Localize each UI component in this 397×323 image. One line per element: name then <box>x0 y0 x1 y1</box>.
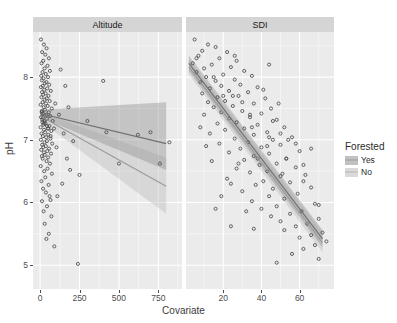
data-point <box>231 94 234 97</box>
data-point <box>195 57 198 60</box>
data-point <box>168 141 171 144</box>
data-point <box>205 145 208 148</box>
data-point <box>45 237 48 240</box>
y-tick-mark <box>30 140 33 141</box>
data-point <box>277 102 280 105</box>
data-point <box>50 215 53 218</box>
data-point <box>48 99 51 102</box>
y-tick-label: 5 <box>8 260 28 270</box>
data-point <box>65 157 68 160</box>
data-point <box>226 177 229 180</box>
data-point <box>199 126 202 129</box>
legend-item-no[interactable]: No <box>345 167 372 177</box>
data-point <box>235 167 238 170</box>
data-point <box>214 207 217 210</box>
data-point <box>206 101 209 104</box>
data-point <box>47 156 50 159</box>
data-point <box>227 151 230 154</box>
facet-strip-sdi: SDI <box>186 17 334 32</box>
data-point <box>220 84 223 87</box>
data-point <box>45 160 48 163</box>
data-point <box>250 126 253 129</box>
panel-altitude <box>33 32 182 289</box>
data-point <box>44 72 47 75</box>
x-tick-mark <box>223 290 224 293</box>
data-point <box>302 247 305 250</box>
y-tick-mark <box>30 77 33 78</box>
data-point <box>43 67 46 70</box>
data-point <box>289 212 292 215</box>
data-point <box>304 173 307 176</box>
data-point <box>50 129 53 132</box>
y-tick-label: 6 <box>8 197 28 207</box>
legend-label: No <box>361 167 372 177</box>
data-point <box>48 195 51 198</box>
panel-sdi <box>186 32 334 289</box>
data-point <box>226 51 229 54</box>
legend-label: Yes <box>361 155 375 165</box>
data-point <box>243 158 246 161</box>
data-point <box>42 210 45 213</box>
data-point <box>49 89 52 92</box>
data-point <box>229 66 232 69</box>
legend-swatch-yes <box>345 156 358 165</box>
data-point <box>268 63 271 66</box>
data-point <box>243 69 246 72</box>
data-point <box>47 183 50 186</box>
x-tick-label: 250 <box>72 293 86 303</box>
data-point <box>239 83 242 86</box>
data-point <box>216 122 219 125</box>
data-point <box>294 225 297 228</box>
facet-strip-label: SDI <box>252 20 267 30</box>
legend-item-yes[interactable]: Yes <box>345 155 375 165</box>
data-point <box>296 192 299 195</box>
x-tick-label: 20 <box>219 293 228 303</box>
data-point <box>43 222 46 225</box>
data-point <box>275 162 278 165</box>
data-point <box>45 136 48 139</box>
data-point <box>294 142 297 145</box>
data-point <box>268 195 271 198</box>
data-point <box>201 49 204 52</box>
data-point <box>229 225 232 228</box>
data-point <box>325 240 328 243</box>
x-tick-mark <box>158 290 159 293</box>
data-point <box>275 118 278 121</box>
data-point <box>224 128 227 131</box>
data-point <box>46 150 49 153</box>
data-point <box>44 53 47 56</box>
data-point <box>49 198 52 201</box>
data-point <box>214 79 217 82</box>
data-point <box>302 163 305 166</box>
data-point <box>56 195 59 198</box>
data-point <box>266 145 269 148</box>
data-point <box>275 205 278 208</box>
data-point <box>54 102 57 105</box>
data-point <box>266 131 269 134</box>
data-point <box>48 83 51 86</box>
data-point <box>254 183 257 186</box>
data-point <box>42 187 45 190</box>
y-tick-mark <box>30 265 33 266</box>
fit-line-yes <box>189 63 323 239</box>
points-no <box>195 57 320 207</box>
data-point <box>41 71 44 74</box>
data-point <box>233 78 236 81</box>
data-point <box>46 104 49 107</box>
data-point <box>44 191 47 194</box>
y-tick-label: 8 <box>8 72 28 82</box>
x-tick-label: 750 <box>151 293 165 303</box>
data-point <box>48 162 51 165</box>
data-point <box>283 229 286 232</box>
data-point <box>235 59 238 62</box>
data-point <box>290 136 293 139</box>
data-point <box>231 104 234 107</box>
x-tick-label: 60 <box>295 293 304 303</box>
data-point <box>281 172 284 175</box>
data-point <box>220 195 223 198</box>
fit-line-no <box>189 67 323 243</box>
x-tick-label: 500 <box>112 293 126 303</box>
data-point <box>256 86 259 89</box>
data-point <box>41 135 44 138</box>
x-tick-label: 0 <box>38 293 43 303</box>
